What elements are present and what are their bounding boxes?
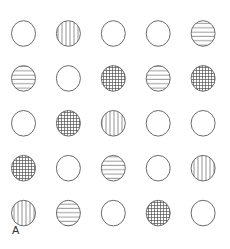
circle-empty-r3-c1 bbox=[12, 111, 36, 137]
circle-empty-r4-c2 bbox=[56, 155, 80, 181]
circle-empty-r3-c5 bbox=[191, 111, 215, 137]
circle-grid-r5-c4 bbox=[146, 200, 170, 226]
circle-pattern-grid bbox=[0, 0, 230, 249]
circle-empty-r1-c1 bbox=[12, 21, 36, 47]
circle-vertical-r5-c1 bbox=[12, 200, 36, 226]
circle-horizontal-r2-c1 bbox=[12, 66, 36, 92]
circle-vertical-r1-c2 bbox=[56, 21, 80, 47]
circle-horizontal-r5-c2 bbox=[56, 200, 80, 226]
circle-empty-r5-c5 bbox=[191, 200, 215, 226]
circle-grid-r2-c3 bbox=[101, 66, 125, 92]
circle-empty-r4-c4 bbox=[146, 155, 170, 181]
circle-vertical-r3-c3 bbox=[101, 111, 125, 137]
circle-horizontal-r1-c5 bbox=[191, 21, 215, 47]
circle-empty-r1-c3 bbox=[101, 21, 125, 47]
circle-grid-r3-c2 bbox=[56, 111, 80, 137]
circle-vertical-r4-c5 bbox=[191, 155, 215, 181]
circle-empty-r3-c4 bbox=[146, 111, 170, 137]
circle-empty-r1-c4 bbox=[146, 21, 170, 47]
circle-empty-r2-c2 bbox=[56, 66, 80, 92]
circle-horizontal-r2-c4 bbox=[146, 66, 170, 92]
circle-empty-r5-c3 bbox=[101, 200, 125, 226]
circle-horizontal-r4-c3 bbox=[101, 155, 125, 181]
circle-grid-r2-c5 bbox=[191, 66, 215, 92]
circle-grid-r4-c1 bbox=[12, 155, 36, 181]
figure-label: A bbox=[12, 225, 19, 236]
